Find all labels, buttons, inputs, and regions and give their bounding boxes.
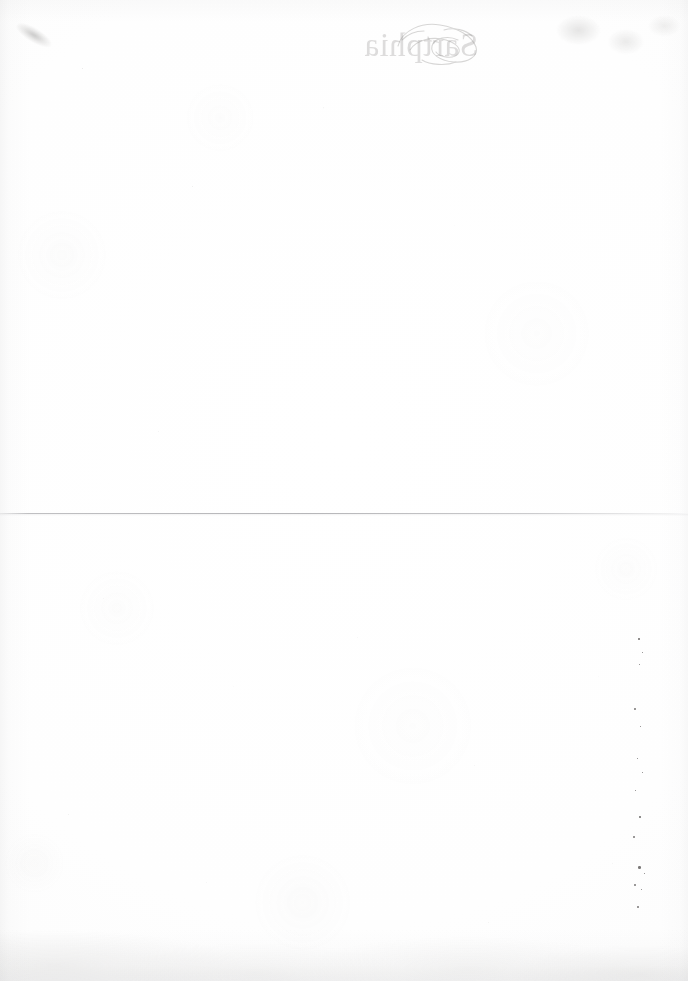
horizontal-rule-shadow — [0, 514, 688, 516]
scanned-page: Sartphia — [0, 0, 688, 981]
paper-background — [0, 0, 688, 981]
